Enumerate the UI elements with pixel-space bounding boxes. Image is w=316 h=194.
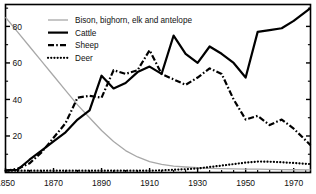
y-tick-label-40: 40 [13, 95, 23, 105]
chart-container: 20406080 1850187018901910193019501970 Bi… [0, 0, 316, 194]
legend-label-1: Cattle [75, 29, 97, 38]
x-tick-label-1970: 1970 [284, 178, 303, 188]
x-tick-label-1870: 1870 [44, 178, 63, 188]
x-tick-label-1910: 1910 [140, 178, 159, 188]
y-tick-label-60: 60 [13, 58, 23, 68]
x-tick-label-1930: 1930 [188, 178, 207, 188]
legend-label-0: Bison, bighorn, elk and antelope [75, 16, 192, 25]
chart-background [0, 0, 316, 194]
y-tick-label-20: 20 [13, 131, 23, 141]
x-tick-label-1950: 1950 [236, 178, 255, 188]
legend-label-2: Sheep [75, 41, 99, 50]
legend-label-3: Deer [75, 54, 93, 63]
y-tick-label-80: 80 [13, 22, 23, 32]
line-chart: 20406080 1850187018901910193019501970 Bi… [0, 0, 316, 194]
x-tick-label-1890: 1890 [92, 178, 111, 188]
x-tick-label-1850: 1850 [0, 178, 15, 188]
